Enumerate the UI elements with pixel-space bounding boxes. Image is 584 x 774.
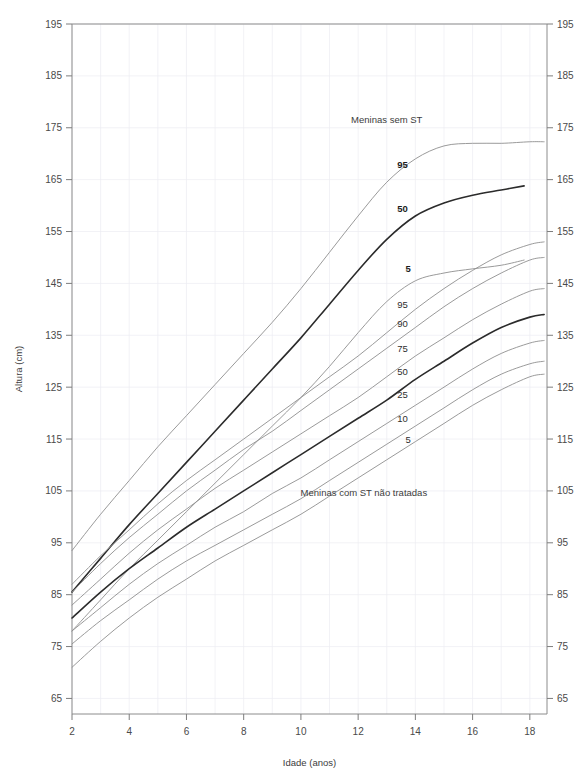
y-tick-label-right: 105	[557, 485, 574, 496]
label-com-st-p5: 5	[406, 434, 411, 445]
label-sem-st-p5: 5	[406, 263, 412, 274]
label-sem-st-p50: 50	[397, 203, 408, 214]
label-com-st-p50: 50	[397, 366, 408, 377]
percentile-curves	[72, 142, 544, 668]
curve-sem-st-p50	[72, 186, 524, 592]
curve-com-st-p75	[72, 289, 544, 605]
chart-canvas: 6565757585859595105105115115125125135135…	[0, 0, 584, 774]
y-tick-label-left: 125	[45, 382, 62, 393]
annotation-girls-with-untreated-ts: Meninas com ST não tratadas	[301, 487, 428, 498]
y-axis-title: Altura (cm)	[13, 346, 24, 392]
curve-com-st-p5	[72, 374, 544, 667]
label-com-st-p25: 25	[397, 389, 408, 400]
y-tick-label-right: 125	[557, 382, 574, 393]
x-tick-label: 4	[126, 726, 132, 737]
y-tick-label-left: 95	[51, 537, 63, 548]
label-com-st-p10: 10	[397, 413, 408, 424]
axis-ticks	[66, 24, 553, 720]
x-tick-label: 8	[241, 726, 247, 737]
growth-chart: 6565757585859595105105115115125125135135…	[0, 0, 584, 774]
y-tick-label-right: 165	[557, 174, 574, 185]
y-tick-label-left: 155	[45, 226, 62, 237]
x-axis-title: Idade (anos)	[283, 757, 336, 768]
y-tick-label-left: 75	[51, 641, 63, 652]
y-tick-label-right: 135	[557, 330, 574, 341]
y-tick-label-left: 105	[45, 485, 62, 496]
curve-sem-st-p5	[72, 260, 524, 631]
label-com-st-p90: 90	[397, 318, 408, 329]
y-tick-label-right: 145	[557, 278, 574, 289]
y-tick-label-right: 175	[557, 122, 574, 133]
y-tick-label-left: 65	[51, 693, 63, 704]
x-tick-label: 2	[69, 726, 75, 737]
x-tick-label: 12	[353, 726, 365, 737]
y-tick-label-right: 95	[557, 537, 569, 548]
y-tick-label-right: 65	[557, 693, 569, 704]
y-tick-label-right: 185	[557, 70, 574, 81]
curve-com-st-p25	[72, 340, 544, 631]
curve-com-st-p10	[72, 361, 544, 644]
y-tick-label-left: 115	[46, 434, 62, 445]
annotation-girls-without-ts: Meninas sem ST	[351, 114, 422, 125]
gridlines	[72, 24, 547, 714]
y-tick-label-right: 85	[557, 589, 569, 600]
percentile-labels: 955059590755025105	[397, 159, 411, 445]
x-tick-label: 16	[467, 726, 479, 737]
label-com-st-p95: 95	[397, 299, 408, 310]
x-tick-label: 14	[410, 726, 422, 737]
axis-titles: Idade (anos)Altura (cm)	[13, 346, 336, 768]
y-tick-label-left: 85	[51, 589, 63, 600]
y-tick-label-right: 75	[557, 641, 569, 652]
y-tick-label-left: 185	[45, 70, 62, 81]
label-sem-st-p95: 95	[397, 159, 408, 170]
x-tick-label: 18	[524, 726, 536, 737]
y-tick-label-left: 145	[45, 278, 62, 289]
curve-com-st-p95	[72, 242, 544, 584]
x-tick-label: 10	[295, 726, 307, 737]
y-tick-label-left: 165	[45, 174, 62, 185]
y-tick-label-right: 115	[557, 434, 573, 445]
x-tick-label: 6	[184, 726, 190, 737]
curve-com-st-p50	[72, 315, 544, 618]
y-tick-label-right: 195	[557, 19, 574, 30]
y-tick-label-left: 175	[45, 122, 62, 133]
y-tick-label-left: 135	[45, 330, 62, 341]
y-tick-label-left: 195	[45, 19, 62, 30]
y-tick-label-right: 155	[557, 226, 574, 237]
label-com-st-p75: 75	[397, 343, 408, 354]
